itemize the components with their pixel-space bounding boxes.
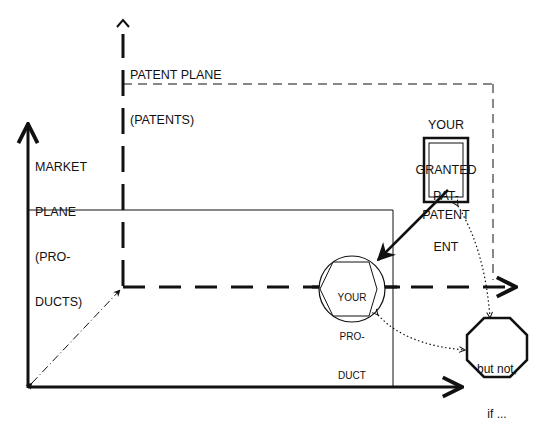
patent-plane-vertical-arrowhead <box>117 20 129 27</box>
patent-box-line1: PAT- <box>429 188 463 205</box>
market-plane-label-line4: DUCTS) <box>35 295 87 310</box>
exception-node-line2: if ... <box>467 407 527 422</box>
patent-box-line2: ENT <box>429 239 463 256</box>
market-plane-label-line3: (PRO- <box>35 250 87 265</box>
patent-plane-label-line1: PATENT PLANE <box>130 68 222 83</box>
market-plane <box>28 124 462 388</box>
product-node-text: YOUR PRO- DUCT <box>322 265 382 395</box>
patent-plane-label-line2: (PATENTS) <box>130 113 222 128</box>
product-exception-dotted-arrow <box>378 315 465 350</box>
market-plane-label-line2: PLANE <box>35 205 87 220</box>
exception-node-line1: but not, <box>467 362 527 377</box>
patent-plane-label: PATENT PLANE (PATENTS) <box>130 38 222 143</box>
market-plane-label: MARKET PLANE (PRO- DUCTS) <box>35 130 87 325</box>
patent-box-text: PAT- ENT <box>429 154 463 273</box>
product-node-line1: YOUR <box>322 291 382 304</box>
product-node-line3: DUCT <box>322 369 382 382</box>
product-node-line2: PRO- <box>322 330 382 343</box>
exception-node-text: but not, if ... <box>467 332 527 422</box>
granted-patent-label-line1: YOUR <box>408 118 484 133</box>
market-plane-label-line1: MARKET <box>35 160 87 175</box>
